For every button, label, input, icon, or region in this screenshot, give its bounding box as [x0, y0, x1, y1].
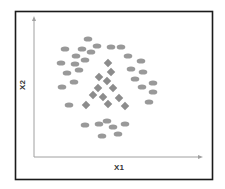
circle-point — [137, 58, 146, 63]
circle-point — [98, 133, 107, 138]
circle-point — [117, 44, 126, 49]
chart-frame — [16, 12, 213, 180]
circle-point — [78, 46, 87, 51]
circle-point — [57, 60, 66, 65]
circle-point — [124, 53, 133, 58]
circle-point — [121, 121, 130, 126]
circle-point — [93, 43, 102, 48]
scatter-chart: X1 X2 — [0, 0, 225, 189]
circle-point — [145, 99, 154, 104]
circle-point — [103, 118, 112, 123]
circle-point — [81, 122, 90, 127]
circle-point — [71, 61, 80, 66]
circle-point — [139, 69, 148, 74]
circle-point — [95, 121, 104, 126]
circle-point — [61, 46, 70, 51]
circle-point — [149, 89, 158, 94]
circle-point — [127, 66, 136, 71]
circle-point — [149, 80, 158, 85]
circle-point — [75, 67, 84, 72]
circle-point — [65, 102, 74, 107]
circle-point — [70, 79, 79, 84]
circle-point — [109, 124, 118, 129]
circle-point — [114, 131, 123, 136]
circle-point — [87, 49, 96, 54]
circle-point — [63, 70, 72, 75]
x-axis-label: X1 — [114, 163, 124, 172]
y-axis-label: X2 — [18, 80, 27, 90]
circle-point — [58, 84, 67, 89]
circle-point — [138, 84, 147, 89]
circle-point — [107, 44, 116, 49]
circle-point — [81, 57, 90, 62]
circle-point — [131, 76, 140, 81]
circle-point — [84, 36, 93, 41]
circle-point — [72, 53, 81, 58]
